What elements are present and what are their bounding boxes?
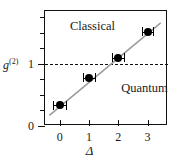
x-axis-tick-label: 2 (111, 131, 125, 143)
error-bar-cap-right (66, 101, 67, 110)
figure-panel: g(2) (0, 0, 179, 161)
marker-dot (85, 74, 93, 82)
error-bar-cap-left (53, 101, 54, 110)
y-axis-tick (38, 64, 45, 65)
y-axis-tick (40, 95, 45, 96)
x-axis-tick (60, 120, 61, 126)
error-bar-cap-right (124, 53, 125, 62)
error-bar-cap-left (142, 27, 143, 36)
error-bar-cap-right (153, 27, 154, 36)
y-axis-tick (40, 48, 45, 49)
region-label-classical: Classical (70, 20, 115, 33)
error-bar-cap-right (95, 73, 96, 82)
y-axis-tick (40, 79, 45, 80)
marker-dot (114, 54, 122, 62)
error-bar-cap-left (112, 53, 113, 62)
x-axis-tick (118, 120, 119, 126)
y-axis-label-superscript: (2) (9, 57, 18, 66)
x-axis-label: Δ (0, 143, 179, 159)
x-axis-tick (89, 120, 90, 126)
error-bar-cap-left (83, 73, 84, 82)
y-axis-label: g(2) (3, 57, 18, 73)
y-axis-tick (40, 33, 45, 34)
x-axis-tick-label: 1 (82, 131, 96, 143)
x-axis-tick-label: 0 (53, 131, 67, 143)
x-axis-tick (148, 120, 149, 126)
plot-area: Classical Quantum 010123 (44, 10, 167, 125)
y-axis-tick (38, 126, 45, 127)
y-axis-tick (40, 17, 45, 18)
x-axis-tick-label: 3 (141, 131, 155, 143)
marker-dot (144, 28, 152, 36)
region-label-quantum: Quantum (121, 82, 168, 95)
y-axis-tick-label: 1 (20, 58, 34, 70)
y-axis-tick (40, 110, 45, 111)
y-axis-tick-label: 0 (20, 120, 34, 132)
